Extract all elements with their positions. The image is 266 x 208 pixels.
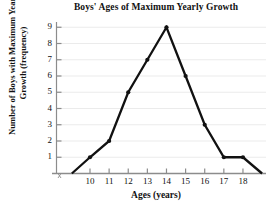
x-tick-label: 13 xyxy=(139,176,155,186)
data-point-marker xyxy=(126,90,130,94)
x-tick-label: 15 xyxy=(178,176,194,186)
y-tick-label: 9 xyxy=(38,21,52,31)
gridlines xyxy=(57,27,266,157)
data-point-marker xyxy=(145,58,149,62)
y-tick-label: 4 xyxy=(38,103,52,113)
y-tick-label: 5 xyxy=(38,86,52,96)
data-point-marker xyxy=(222,155,226,159)
x-tick-label: 17 xyxy=(216,176,232,186)
data-point-marker xyxy=(107,139,111,143)
data-point-marker xyxy=(88,155,92,159)
x-tick-label: 16 xyxy=(197,176,213,186)
data-point-marker xyxy=(203,123,207,127)
data-line xyxy=(72,27,262,173)
y-tick-label: 7 xyxy=(38,54,52,64)
data-point-marker xyxy=(184,74,188,78)
x-tick-label: 10 xyxy=(82,176,98,186)
x-tick-label: 18 xyxy=(235,176,251,186)
y-tick-label: 2 xyxy=(38,135,52,145)
data-point-marker xyxy=(241,155,245,159)
y-tick-label: 1 xyxy=(38,151,52,161)
y-tick-label: 3 xyxy=(38,119,52,129)
y-tick-label: 8 xyxy=(38,38,52,48)
x-tick-label: 11 xyxy=(101,176,117,186)
y-tick-label: 6 xyxy=(38,70,52,80)
x-tick-label: 12 xyxy=(120,176,136,186)
y-tick-marks xyxy=(57,27,62,157)
axis-lines xyxy=(52,22,266,178)
data-point-marker xyxy=(164,25,168,29)
x-tick-label: 14 xyxy=(159,176,175,186)
chart-container: Boys' Ages of Maximum Yearly Growth Numb… xyxy=(0,0,266,208)
